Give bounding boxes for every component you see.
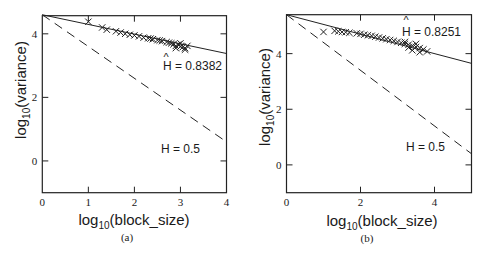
annotation-h05-a: H = 0.5 <box>161 142 200 156</box>
x-tick-label: 4 <box>432 196 438 208</box>
scatter-points <box>85 19 190 53</box>
caption-a: (a) <box>121 231 134 244</box>
x-tick-label: 0 <box>40 196 46 208</box>
y-axis-label-b: log10(variance) <box>256 48 276 146</box>
annotation-h05-b: H = 0.5 <box>406 140 445 154</box>
fitted-line <box>287 15 472 64</box>
figure: 01234024 log10(variance) log10(block_siz… <box>0 0 486 255</box>
y-tick-label: 0 <box>32 155 38 167</box>
x-tick-label: 2 <box>358 196 364 208</box>
y-tick-label: 2 <box>276 103 282 115</box>
x-axis-label-b: log10(block_size) <box>326 212 437 232</box>
axes-frame <box>42 16 226 193</box>
x-axis-label-a: log10(block_size) <box>78 211 189 231</box>
x-tick-label: 0 <box>284 196 290 208</box>
x-tick-label: 2 <box>132 196 138 208</box>
x-tick-label: 4 <box>224 196 230 208</box>
chart-panel-a: 01234024 log10(variance) log10(block_siz… <box>12 15 230 244</box>
plot-area-b: 024024 <box>276 15 472 208</box>
axes-frame <box>287 15 472 193</box>
y-tick-label: 4 <box>32 28 38 40</box>
y-axis-label-a: log10(variance) <box>12 41 32 139</box>
plot-area-a: 01234024 <box>32 15 230 208</box>
chart-panel-b: 024024 log10(variance) log10(block_size)… <box>256 14 472 245</box>
x-tick-label: 3 <box>178 196 184 208</box>
annotation-hurst-a: H = 0.8382 <box>163 59 222 73</box>
annotation-hurst-b: H = 0.8251 <box>402 25 461 39</box>
caption-b: (b) <box>361 232 374 245</box>
y-tick-label: 4 <box>276 48 282 60</box>
y-tick-label: 2 <box>32 91 38 103</box>
x-tick-label: 1 <box>86 196 92 208</box>
y-tick-label: 0 <box>276 159 282 171</box>
